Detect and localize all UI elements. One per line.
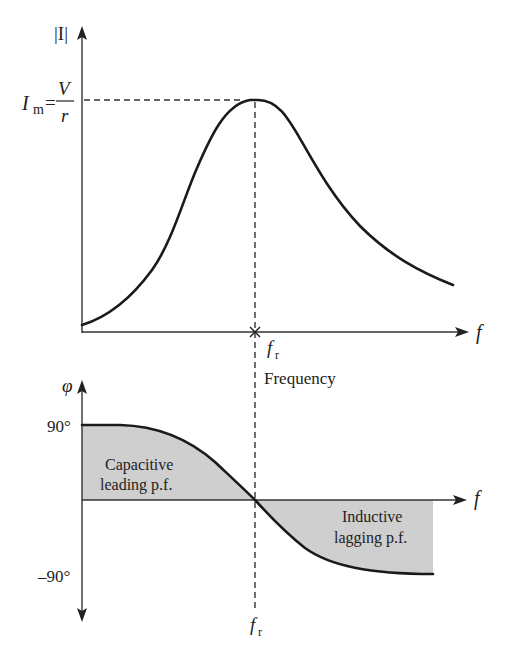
- frequency-caption: Frequency: [264, 369, 336, 388]
- tick-minus-90-deg: –90°: [37, 567, 70, 586]
- svg-text:f: f: [250, 614, 258, 635]
- resonance-frequency-label-top: f r: [267, 337, 279, 362]
- resonance-diagram: |I| f I m = V r f r Frequency: [0, 0, 510, 664]
- current-y-axis-label: |I|: [54, 23, 68, 44]
- svg-text:V: V: [58, 78, 72, 99]
- svg-text:f: f: [267, 337, 275, 358]
- current-x-axis-label: f: [476, 321, 484, 344]
- phase-x-axis-label: f: [474, 487, 482, 510]
- inductive-label-line2: lagging p.f.: [334, 529, 407, 547]
- svg-text:I: I: [21, 92, 30, 114]
- current-resonance-curve: [82, 100, 453, 325]
- svg-text:m: m: [33, 102, 44, 117]
- peak-value-label: I m = V r: [21, 78, 74, 126]
- tick-90-deg: 90°: [47, 417, 71, 436]
- svg-text:r: r: [61, 105, 69, 126]
- phase-graph: φ f 90° –90° Capacitive leading p.f. Ind…: [37, 375, 482, 639]
- resonance-frequency-label-bottom: f r: [250, 614, 262, 639]
- svg-text:=: =: [45, 92, 56, 113]
- capacitive-label-line2: leading p.f.: [100, 476, 172, 494]
- phase-y-axis-label: φ: [62, 375, 73, 396]
- capacitive-label-line1: Capacitive: [105, 456, 173, 474]
- inductive-label-line1: Inductive: [342, 508, 402, 525]
- svg-text:r: r: [275, 348, 279, 362]
- svg-text:r: r: [258, 625, 262, 639]
